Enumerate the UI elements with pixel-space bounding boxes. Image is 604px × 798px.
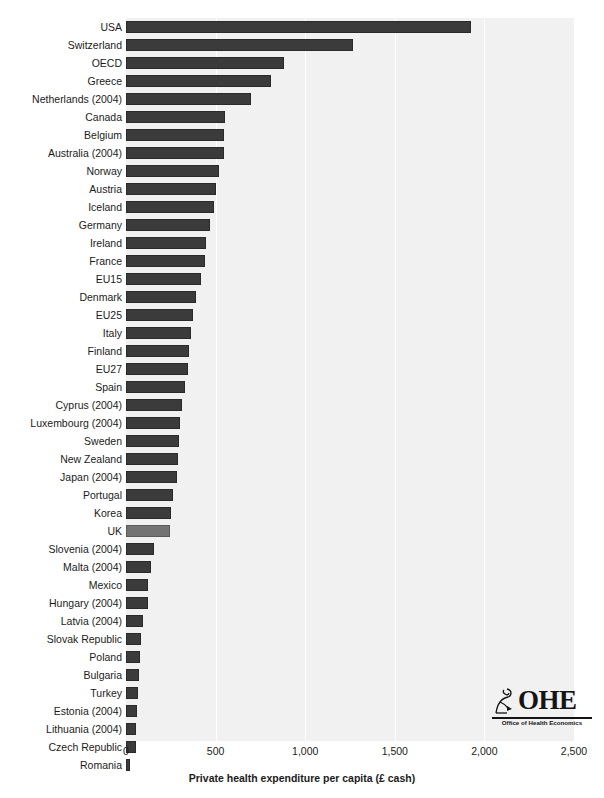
bar-row: Canada bbox=[0, 108, 604, 126]
bar-netherlands-2004 bbox=[126, 93, 251, 105]
bar-australia-2004 bbox=[126, 147, 224, 159]
bar-mexico bbox=[126, 579, 148, 591]
category-label-iceland: Iceland bbox=[88, 198, 122, 216]
bar-denmark bbox=[126, 291, 196, 303]
bar-chart: USASwitzerlandOECDGreeceNetherlands (200… bbox=[0, 0, 604, 798]
bar-row: UK bbox=[0, 522, 604, 540]
bar-row: Germany bbox=[0, 216, 604, 234]
bar-row: Austria bbox=[0, 180, 604, 198]
bar-row: Belgium bbox=[0, 126, 604, 144]
bar-row: Spain bbox=[0, 378, 604, 396]
bar-row: Norway bbox=[0, 162, 604, 180]
bar-ireland bbox=[126, 237, 206, 249]
bar-row: EU25 bbox=[0, 306, 604, 324]
bar-row: Ireland bbox=[0, 234, 604, 252]
bar-germany bbox=[126, 219, 210, 231]
category-label-luxembourg-2004: Luxembourg (2004) bbox=[30, 414, 122, 432]
bar-latvia-2004 bbox=[126, 615, 143, 627]
bar-row: Malta (2004) bbox=[0, 558, 604, 576]
bar-row: Poland bbox=[0, 648, 604, 666]
category-label-new-zealand: New Zealand bbox=[60, 450, 122, 468]
bar-malta-2004 bbox=[126, 561, 151, 573]
category-label-slovak-republic: Slovak Republic bbox=[47, 630, 122, 648]
category-label-latvia-2004: Latvia (2004) bbox=[61, 612, 122, 630]
bar-row: Mexico bbox=[0, 576, 604, 594]
bar-austria bbox=[126, 183, 216, 195]
bar-row: Luxembourg (2004) bbox=[0, 414, 604, 432]
bar-row: France bbox=[0, 252, 604, 270]
bar-row: Portugal bbox=[0, 486, 604, 504]
bar-row: Australia (2004) bbox=[0, 144, 604, 162]
category-label-usa: USA bbox=[100, 18, 122, 36]
bar-row: Hungary (2004) bbox=[0, 594, 604, 612]
bar-row: Greece bbox=[0, 72, 604, 90]
x-tick-label-2000: 2,000 bbox=[449, 745, 519, 757]
x-tick-label-0: 0 bbox=[91, 745, 161, 757]
bar-row: OECD bbox=[0, 54, 604, 72]
category-label-cyprus-2004: Cyprus (2004) bbox=[55, 396, 122, 414]
bar-row: Slovenia (2004) bbox=[0, 540, 604, 558]
ohe-logo-subtitle: Office of Health Economics bbox=[492, 719, 592, 726]
category-label-hungary-2004: Hungary (2004) bbox=[49, 594, 122, 612]
category-label-germany: Germany bbox=[79, 216, 122, 234]
category-label-denmark: Denmark bbox=[79, 288, 122, 306]
category-label-ireland: Ireland bbox=[90, 234, 122, 252]
bar-new-zealand bbox=[126, 453, 178, 465]
x-axis-ticks: 05001,0001,5002,0002,500 bbox=[0, 745, 604, 765]
bar-portugal bbox=[126, 489, 173, 501]
bar-turkey bbox=[126, 687, 138, 699]
bar-row: New Zealand bbox=[0, 450, 604, 468]
category-label-japan-2004: Japan (2004) bbox=[60, 468, 122, 486]
category-label-slovenia-2004: Slovenia (2004) bbox=[48, 540, 122, 558]
category-label-portugal: Portugal bbox=[83, 486, 122, 504]
category-label-belgium: Belgium bbox=[84, 126, 122, 144]
x-axis-title: Private health expenditure per capita (£… bbox=[0, 772, 604, 784]
bar-row: Italy bbox=[0, 324, 604, 342]
bar-row: Switzerland bbox=[0, 36, 604, 54]
category-label-finland: Finland bbox=[88, 342, 122, 360]
bar-japan-2004 bbox=[126, 471, 177, 483]
category-label-eu27: EU27 bbox=[96, 360, 122, 378]
bar-row: Finland bbox=[0, 342, 604, 360]
category-label-greece: Greece bbox=[88, 72, 122, 90]
bar-row: Denmark bbox=[0, 288, 604, 306]
bar-italy bbox=[126, 327, 191, 339]
category-label-switzerland: Switzerland bbox=[68, 36, 122, 54]
category-label-malta-2004: Malta (2004) bbox=[63, 558, 122, 576]
category-label-bulgaria: Bulgaria bbox=[83, 666, 122, 684]
bar-slovak-republic bbox=[126, 633, 141, 645]
x-tick-label-1000: 1,000 bbox=[270, 745, 340, 757]
bar-row: USA bbox=[0, 18, 604, 36]
bar-belgium bbox=[126, 129, 224, 141]
ohe-logo: OHE Office of Health Economics bbox=[490, 686, 594, 732]
bar-finland bbox=[126, 345, 189, 357]
bar-poland bbox=[126, 651, 140, 663]
bar-usa bbox=[126, 21, 471, 33]
bar-eu27 bbox=[126, 363, 188, 375]
category-label-netherlands-2004: Netherlands (2004) bbox=[32, 90, 122, 108]
category-label-austria: Austria bbox=[89, 180, 122, 198]
bar-row: EU27 bbox=[0, 360, 604, 378]
x-tick-label-1500: 1,500 bbox=[360, 745, 430, 757]
bar-row: EU15 bbox=[0, 270, 604, 288]
bar-rows: USASwitzerlandOECDGreeceNetherlands (200… bbox=[0, 18, 604, 741]
bar-row: Korea bbox=[0, 504, 604, 522]
bar-iceland bbox=[126, 201, 214, 213]
category-label-uk: UK bbox=[107, 522, 122, 540]
bar-slovenia-2004 bbox=[126, 543, 154, 555]
bar-row: Bulgaria bbox=[0, 666, 604, 684]
bar-switzerland bbox=[126, 39, 353, 51]
bar-hungary-2004 bbox=[126, 597, 148, 609]
category-label-eu25: EU25 bbox=[96, 306, 122, 324]
bar-luxembourg-2004 bbox=[126, 417, 180, 429]
category-label-spain: Spain bbox=[95, 378, 122, 396]
category-label-canada: Canada bbox=[85, 108, 122, 126]
bar-row: Netherlands (2004) bbox=[0, 90, 604, 108]
category-label-australia-2004: Australia (2004) bbox=[48, 144, 122, 162]
bar-row: Cyprus (2004) bbox=[0, 396, 604, 414]
bar-row: Iceland bbox=[0, 198, 604, 216]
category-label-eu15: EU15 bbox=[96, 270, 122, 288]
category-label-italy: Italy bbox=[103, 324, 122, 342]
category-label-norway: Norway bbox=[86, 162, 122, 180]
bar-eu15 bbox=[126, 273, 201, 285]
